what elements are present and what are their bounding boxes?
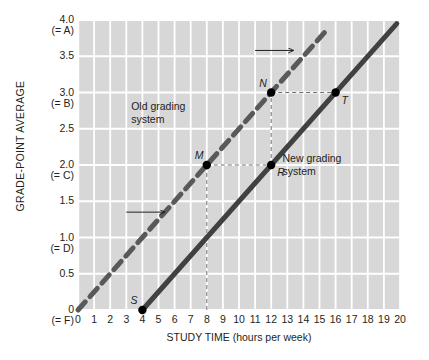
y-tick-letter-grade: (= D)	[50, 243, 74, 254]
y-tick-letter-grade: (= A)	[52, 25, 74, 36]
plot-area: SMNRTOld gradingsystemNew gradingsystem	[78, 20, 400, 310]
old-grading-system-label-line1: Old grading	[131, 100, 185, 113]
y-tick-value: 0.5	[59, 268, 74, 279]
y-tick-value: 3.0	[51, 87, 74, 98]
x-tick-20: 20	[390, 313, 410, 325]
y-tick-2-0: 2.0(= C)	[50, 159, 74, 181]
y-tick-value: 3.5	[59, 50, 74, 61]
y-tick-value: 2.5	[59, 123, 74, 134]
y-tick-1-5: 1.5	[59, 195, 74, 206]
y-tick-1-0: 1.0(= D)	[50, 232, 74, 254]
point-label-s: S	[130, 294, 137, 306]
point-label-m: M	[195, 149, 204, 161]
y-tick-letter-grade: (= B)	[51, 98, 74, 109]
new-grading-system-label-line2: system	[282, 165, 315, 178]
y-tick-3-0: 3.0(= B)	[51, 87, 74, 109]
y-tick-4-0: 4.0(= A)	[52, 14, 74, 36]
new-grading-system-label-line1: New grading	[282, 152, 341, 165]
x-axis-title: STUDY TIME (hours per week)	[78, 331, 400, 343]
point-label-t: T	[342, 94, 348, 106]
y-tick-0-5: 0.5	[59, 268, 74, 279]
y-tick-letter-grade: (= C)	[50, 170, 74, 181]
plot-annotations: SMNRTOld gradingsystemNew gradingsystem	[78, 20, 400, 310]
y-tick-value: 1.0	[50, 232, 74, 243]
old-grading-system-label-line2: system	[131, 113, 164, 126]
chart-figure: GRADE-POINT AVERAGE 4.0(= A)3.53.0(= B)2…	[0, 0, 429, 360]
y-tick-3-5: 3.5	[59, 50, 74, 61]
point-label-n: N	[259, 77, 267, 89]
y-axis-tick-labels: 4.0(= A)3.53.0(= B)2.52.0(= C)1.51.0(= D…	[0, 0, 74, 360]
y-tick-value: 1.5	[59, 195, 74, 206]
y-tick-2-5: 2.5	[59, 123, 74, 134]
